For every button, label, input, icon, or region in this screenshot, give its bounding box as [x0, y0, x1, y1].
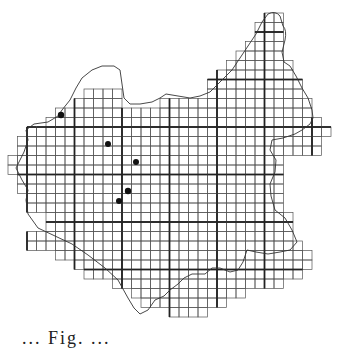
grid-cell — [236, 184, 246, 194]
grid-cell — [75, 213, 85, 223]
grid-cell — [217, 165, 227, 175]
grid-cell — [132, 232, 142, 242]
grid-cell — [208, 298, 218, 308]
grid-cell — [255, 42, 265, 52]
grid-cell — [122, 260, 132, 270]
grid-cell — [246, 89, 256, 99]
grid-cell — [246, 70, 256, 80]
grid-cell — [132, 251, 142, 261]
grid-cell — [246, 51, 256, 61]
grid-cell — [122, 213, 132, 223]
grid-cell — [179, 289, 189, 299]
grid-cell — [274, 203, 284, 213]
grid-cell — [322, 127, 332, 137]
grid-cell — [151, 127, 161, 137]
grid-cell — [198, 118, 208, 128]
grid-cell — [160, 146, 170, 156]
grid-cell — [84, 203, 94, 213]
grid-cell — [189, 118, 199, 128]
grid-cell — [217, 289, 227, 299]
grid-cell — [179, 137, 189, 147]
grid-cell — [246, 241, 256, 251]
grid-cell — [132, 146, 142, 156]
grid-cell — [122, 251, 132, 261]
grid-cell — [151, 222, 161, 232]
grid-cell — [46, 146, 56, 156]
grid-cell — [293, 118, 303, 128]
grid-cell — [46, 194, 56, 204]
grid-cell — [122, 232, 132, 242]
grid-cell — [208, 232, 218, 242]
grid-cell — [132, 108, 142, 118]
grid-cell — [37, 203, 47, 213]
grid-cell — [179, 203, 189, 213]
grid-cell — [189, 127, 199, 137]
grid-cell — [303, 146, 313, 156]
grid-cell — [312, 137, 322, 147]
grid-cell — [132, 241, 142, 251]
grid-cell — [170, 108, 180, 118]
grid-cell — [208, 251, 218, 261]
grid-cell — [246, 127, 256, 137]
grid-cell — [189, 99, 199, 109]
grid-cell — [236, 118, 246, 128]
grid-cell — [141, 260, 151, 270]
grid-cell — [255, 99, 265, 109]
grid-cell — [293, 99, 303, 109]
grid-cell — [18, 156, 28, 166]
grid-cell — [179, 279, 189, 289]
grid-cell — [170, 137, 180, 147]
grid-cell — [65, 165, 75, 175]
grid-cell — [113, 137, 123, 147]
grid-cell — [236, 232, 246, 242]
grid-cell — [274, 80, 284, 90]
grid-cell — [132, 270, 142, 280]
grid-cell — [227, 61, 237, 71]
grid-cell — [132, 137, 142, 147]
grid-cell — [84, 99, 94, 109]
grid-cell — [255, 222, 265, 232]
grid-cell — [217, 156, 227, 166]
grid-cell — [246, 232, 256, 242]
grid-cell — [46, 184, 56, 194]
grid-cell — [122, 156, 132, 166]
grid-cell — [179, 156, 189, 166]
grid-cell — [56, 203, 66, 213]
grid-cell — [198, 184, 208, 194]
grid-cell — [132, 175, 142, 185]
grid-cell — [141, 137, 151, 147]
grid-cell — [141, 270, 151, 280]
grid-cell — [227, 203, 237, 213]
grid-cell — [255, 194, 265, 204]
grid-cell — [75, 222, 85, 232]
grid-cell — [217, 251, 227, 261]
grid-cell — [227, 146, 237, 156]
grid-cell — [170, 232, 180, 242]
grid-cell — [246, 137, 256, 147]
grid-cell — [46, 222, 56, 232]
grid-cell — [65, 194, 75, 204]
grid-cell — [284, 260, 294, 270]
grid-cell — [246, 251, 256, 261]
grid-cell — [208, 194, 218, 204]
grid-cell — [265, 165, 275, 175]
grid-cell — [208, 241, 218, 251]
grid-cell — [94, 165, 104, 175]
grid-cell — [227, 108, 237, 118]
grid-cell — [208, 184, 218, 194]
grid-cell — [103, 156, 113, 166]
grid-cell — [189, 108, 199, 118]
grid-cell — [189, 308, 199, 318]
grid-cell — [217, 108, 227, 118]
grid-cell — [217, 213, 227, 223]
grid-cell — [75, 203, 85, 213]
grid-cell — [160, 194, 170, 204]
grid-cell — [84, 89, 94, 99]
grid-cell — [189, 184, 199, 194]
grid-cell — [84, 213, 94, 223]
grid-cell — [27, 194, 37, 204]
grid-cell — [84, 241, 94, 251]
grid-cell — [255, 118, 265, 128]
grid-cell — [56, 137, 66, 147]
grid-cell — [246, 184, 256, 194]
